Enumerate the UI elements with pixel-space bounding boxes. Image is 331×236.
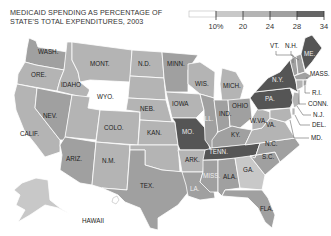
label-neb: NEB. [140, 105, 155, 112]
label-colo: COLO. [104, 124, 124, 131]
label-ind: IND. [219, 110, 232, 117]
label-nc: N.C. [265, 140, 278, 147]
label-ark: ARK. [185, 156, 200, 163]
state-hawaii [112, 196, 119, 204]
label-nev: NEV. [43, 112, 57, 119]
label-mich: MICH. [223, 82, 241, 89]
label-mont: MONT. [90, 60, 110, 67]
label-vt: VT. [270, 42, 279, 49]
label-hawaii: HAWAII [82, 217, 104, 224]
state-conn [296, 80, 303, 90]
label-me: ME. [304, 50, 315, 57]
label-idaho: IDAHO [61, 81, 81, 88]
label-del: DEL. [312, 121, 326, 128]
state-ri [303, 80, 307, 86]
state-sd [128, 76, 166, 100]
label-minn: MINN. [167, 60, 185, 67]
label-wva: W.VA. [250, 117, 267, 124]
us-map: WASH. ORE. CALIF. IDAHO NEV. MONT. WYO. … [0, 0, 331, 236]
label-ore: ORE. [31, 71, 47, 78]
label-ariz: ARIZ. [66, 155, 82, 162]
label-wis: WIS. [195, 80, 209, 87]
label-nm: N.M. [102, 157, 116, 164]
label-fla: FLA. [260, 205, 274, 212]
label-ga: GA. [243, 166, 254, 173]
label-tex: TEX. [140, 182, 154, 189]
label-ill: ILL. [203, 115, 214, 122]
state-nm [92, 142, 130, 190]
label-miss: MISS. [203, 172, 220, 179]
label-ala: ALA. [223, 173, 237, 180]
label-tenn: TENN. [209, 148, 228, 155]
label-nj: N.J. [313, 111, 324, 118]
label-sc: S.C. [262, 153, 274, 160]
label-ri: R.I. [312, 89, 322, 96]
label-wyo: WYO. [97, 93, 114, 100]
label-ky: KY. [231, 131, 241, 138]
label-la: LA. [190, 185, 200, 192]
state-del [292, 108, 295, 115]
label-calif: CALIF. [20, 130, 39, 137]
label-nd: N.D. [138, 60, 151, 67]
label-mo: MO. [182, 128, 194, 135]
label-md: MD. [311, 134, 323, 141]
label-va: VA. [266, 121, 276, 128]
label-wash: WASH. [38, 48, 59, 55]
label-iowa: IOWA [172, 100, 189, 107]
label-mass: MASS. [310, 70, 330, 77]
label-ohio: OHIO [232, 102, 248, 109]
label-pa: PA. [265, 95, 275, 102]
state-alaska [14, 178, 70, 222]
label-kan: KAN. [147, 129, 162, 136]
label-ny: N.Y. [272, 76, 284, 83]
label-conn: CONN. [308, 100, 329, 107]
label-nh: N.H. [285, 42, 298, 49]
